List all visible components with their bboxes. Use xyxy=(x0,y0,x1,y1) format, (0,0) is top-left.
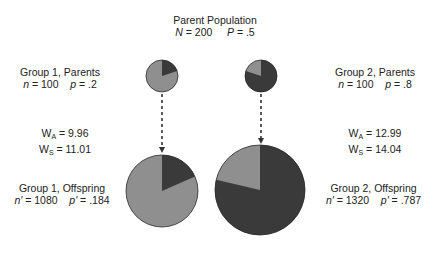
group1-parents-pie xyxy=(146,60,178,92)
diagram-canvas xyxy=(0,0,435,263)
group1-offspring-pie xyxy=(126,155,198,227)
group2-parents-pie xyxy=(245,60,277,92)
group2-offspring-pie xyxy=(215,145,305,235)
